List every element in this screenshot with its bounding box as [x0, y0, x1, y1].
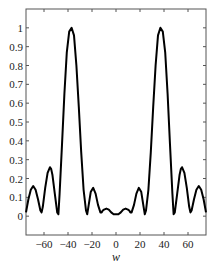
- y-tick-label: 0.8: [9, 60, 23, 72]
- x-tick-label: −20: [83, 238, 101, 250]
- y-tick-label: 0: [18, 210, 24, 222]
- y-tick-label: 0.7: [9, 78, 23, 90]
- y-tick-label: 0.1: [9, 191, 23, 203]
- x-tick-label: 20: [135, 238, 147, 250]
- chart: −60−40−200204060 00.10.20.30.40.50.60.70…: [0, 0, 218, 267]
- x-tick-label: 40: [159, 238, 171, 250]
- y-tick-label: 1: [18, 22, 24, 34]
- y-tick-label: 0.5: [9, 116, 23, 128]
- x-axis-label: w: [112, 250, 120, 264]
- x-tick-label: 60: [183, 238, 195, 250]
- plot-frame: [26, 9, 206, 235]
- x-tick-label: −40: [59, 238, 77, 250]
- x-tick-label: −60: [35, 238, 53, 250]
- data-series-line: [26, 28, 206, 215]
- y-tick-label: 0.4: [9, 135, 23, 147]
- x-tick-label: 0: [113, 238, 119, 250]
- y-tick-label: 0.6: [9, 97, 23, 109]
- y-tick-label: 0.2: [9, 173, 23, 185]
- y-tick-label: 0.3: [9, 154, 23, 166]
- y-tick-label: 0.9: [9, 41, 23, 53]
